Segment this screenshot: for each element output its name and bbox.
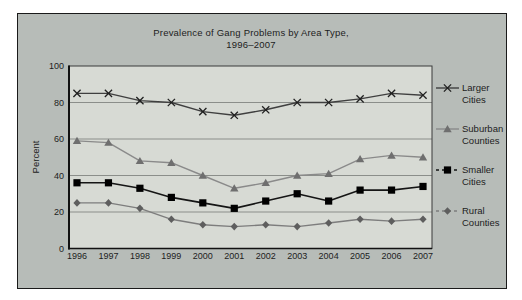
- data-point-smaller-cities-1997: [105, 179, 112, 186]
- chart-figure: Prevalence of Gang Problems by Area Type…: [0, 0, 522, 300]
- legend-item-larger-cities: LargerCities: [436, 82, 489, 105]
- data-point-smaller-cities-2002: [262, 197, 269, 204]
- line-chart-canvas: 0204060801001996199719981999200020012002…: [0, 0, 522, 300]
- data-point-smaller-cities-2004: [325, 197, 332, 204]
- y-tick-label-100: 100: [49, 61, 64, 71]
- x-tick-label-1999: 1999: [161, 251, 181, 261]
- legend-item-smaller-cities: SmallerCities: [436, 164, 494, 187]
- data-point-smaller-cities-1996: [73, 179, 80, 186]
- x-tick-label-2002: 2002: [256, 251, 276, 261]
- legend-label-rural-counties-line2: Counties: [462, 217, 500, 228]
- x-tick-label-2003: 2003: [287, 251, 307, 261]
- y-tick-label-40: 40: [54, 171, 64, 181]
- x-tick-label-1998: 1998: [130, 251, 150, 261]
- data-point-smaller-cities-2005: [356, 187, 363, 194]
- data-point-smaller-cities-2006: [388, 187, 395, 194]
- x-tick-label-2000: 2000: [193, 251, 213, 261]
- y-tick-label-60: 60: [54, 134, 64, 144]
- x-tick-label-1997: 1997: [98, 251, 118, 261]
- legend-item-suburban-counties: SuburbanCounties: [436, 123, 503, 146]
- y-tick-label-0: 0: [59, 244, 64, 254]
- legend: LargerCitiesSuburbanCountiesSmallerCitie…: [436, 82, 503, 228]
- legend-label-smaller-cities-line1: Smaller: [462, 164, 494, 175]
- x-tick-label-2007: 2007: [413, 251, 433, 261]
- x-tick-label-2005: 2005: [350, 251, 370, 261]
- data-point-smaller-cities-1998: [136, 185, 143, 192]
- data-point-smaller-cities-2000: [199, 199, 206, 206]
- y-tick-label-20: 20: [54, 207, 64, 217]
- legend-label-suburban-counties-line2: Counties: [462, 135, 500, 146]
- x-tick-label-2001: 2001: [224, 251, 244, 261]
- legend-marker-smaller-cities-icon: [444, 166, 451, 173]
- legend-label-smaller-cities-line2: Cities: [462, 176, 486, 187]
- legend-item-rural-counties: RuralCounties: [436, 205, 500, 228]
- legend-label-rural-counties-line1: Rural: [462, 205, 485, 216]
- x-tick-label-1996: 1996: [67, 251, 87, 261]
- data-point-smaller-cities-2007: [419, 183, 426, 190]
- x-tick-label-2004: 2004: [319, 251, 339, 261]
- data-point-smaller-cities-1999: [168, 194, 175, 201]
- y-tick-label-80: 80: [54, 98, 64, 108]
- data-point-smaller-cities-2003: [294, 190, 301, 197]
- legend-label-suburban-counties-line1: Suburban: [462, 123, 503, 134]
- legend-marker-rural-counties-icon: [444, 207, 451, 215]
- x-tick-label-2006: 2006: [382, 251, 402, 261]
- legend-label-larger-cities-line2: Cities: [462, 94, 486, 105]
- data-point-smaller-cities-2001: [231, 205, 238, 212]
- legend-label-larger-cities-line1: Larger: [462, 82, 489, 93]
